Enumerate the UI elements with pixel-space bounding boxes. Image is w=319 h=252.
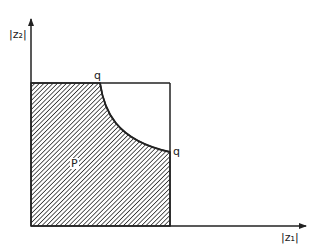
polydisc-region-figure — [0, 0, 319, 252]
y-axis-label: |z₂| — [9, 29, 27, 40]
corner-label-q-right: q — [173, 146, 180, 157]
region-label-p: P — [70, 158, 79, 169]
hatched-region-p — [31, 83, 170, 226]
corner-label-q-top: q — [94, 70, 101, 81]
x-axis-label: |z₁| — [281, 232, 299, 243]
